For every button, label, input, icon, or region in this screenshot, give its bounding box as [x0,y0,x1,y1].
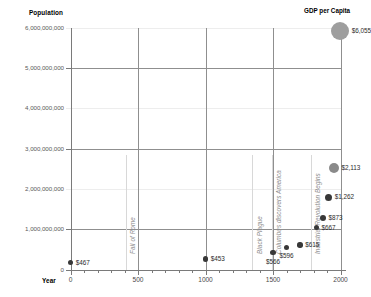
x-axis-tick-label: 1500 [258,276,288,283]
x-axis-tick [206,271,207,275]
x-axis-tick-label: 2000 [326,276,356,283]
y-axis-tick [66,189,71,190]
data-point[interactable] [314,225,319,230]
y-axis-tick-label: 5,000,000,000 [2,64,64,71]
data-point[interactable] [203,256,208,261]
x-axis-tick [84,271,85,273]
x-axis-tick [287,271,288,273]
x-axis-tick [165,271,166,273]
y-axis-tick-label: 2,000,000,000 [2,185,64,192]
gridline-vertical [71,28,72,270]
x-axis-tick [314,271,315,273]
x-axis-tick [152,271,153,273]
annotation-line [252,155,253,270]
y-axis-tick-label: 4,000,000,000 [2,104,64,111]
data-point-label: $873 [329,214,343,221]
legend-title: GDP per Capita [304,7,350,14]
x-axis-tick [192,271,193,273]
annotation-line [126,155,127,270]
x-axis-tick [300,271,301,273]
y-axis-tick [66,108,71,109]
x-axis-tick-label: 1000 [191,276,221,283]
data-point[interactable] [270,250,275,255]
data-point[interactable] [331,22,349,40]
data-point[interactable] [329,163,339,173]
x-axis-tick [273,271,274,275]
gridline-vertical [273,28,274,270]
data-point-label: $6,055 [352,27,371,34]
x-axis-tick [327,271,328,273]
annotation-label: Columbus discovers America [275,170,282,254]
data-point-label: $667 [321,224,335,231]
y-axis-tick-label: 6,000,000,000 [2,24,64,31]
gridline-vertical [206,28,207,270]
annotation-line [311,155,312,270]
x-axis-tick-label: 0 [56,276,86,283]
annotation-label: Fall of Rome [129,217,136,254]
annotation-label: Black Plague [256,216,263,254]
y-axis-tick [66,149,71,150]
gridline-vertical [341,28,342,270]
data-point[interactable] [297,242,302,247]
y-axis-title: Population [29,9,63,16]
data-point[interactable] [68,260,73,265]
data-point-label: $615 [305,241,319,248]
x-axis-tick [111,271,112,273]
y-axis-tick-label: 3,000,000,000 [2,145,64,152]
x-axis-title: Year [42,277,56,284]
data-point-label: $596 [280,252,294,259]
data-point[interactable] [284,245,289,250]
x-axis-tick [71,271,72,275]
y-axis-tick-label: 0 [2,266,64,273]
gridline-vertical [138,28,139,270]
x-axis-tick [246,271,247,273]
x-axis-tick [219,271,220,273]
x-axis-tick [260,271,261,273]
y-axis-tick [66,270,71,271]
x-axis-tick [233,271,234,273]
x-axis-tick [179,271,180,273]
y-axis-tick [66,68,71,69]
x-axis-tick [125,271,126,273]
x-axis-tick [341,271,342,275]
data-point[interactable] [325,194,332,201]
y-axis-tick [66,229,71,230]
data-point[interactable] [320,215,326,221]
data-point-label: $566 [266,258,280,265]
x-axis-tick [98,271,99,273]
data-point-label: $1,262 [335,193,354,200]
y-axis-tick [66,28,71,29]
data-point-label: $453 [211,255,225,262]
x-axis-tick [138,271,139,275]
data-point-label: $2,113 [341,164,360,171]
x-axis-tick-label: 500 [123,276,153,283]
data-point-label: $467 [76,259,90,266]
y-axis-tick-label: 1,000,000,000 [2,225,64,232]
